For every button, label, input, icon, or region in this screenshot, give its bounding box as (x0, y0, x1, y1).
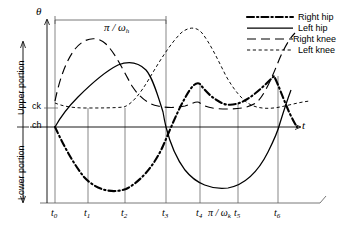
knee-period-annotation: π / ωk (208, 208, 231, 218)
hip-period-annotation: π / ωh (104, 22, 129, 33)
y-axis-label: θ (36, 6, 41, 17)
level-label-ck: ck (32, 102, 41, 111)
x-tick-sub-t1: 1 (87, 212, 91, 220)
grid-lines (55, 20, 278, 203)
x-tick-label-t0: t0 (51, 208, 57, 218)
knee-period-text: π / ω (208, 207, 228, 218)
x-tick-sub-t5: 5 (237, 212, 241, 220)
legend-label-left-knee: Left knee (298, 45, 335, 55)
x-tick-label-t1: t1 (84, 208, 90, 218)
legend-label-right-knee: Right knee (293, 34, 336, 44)
x-tick-sub-t4: 4 (199, 212, 203, 220)
curve-right-knee (55, 33, 295, 109)
x-tick-sub-t2: 2 (124, 212, 128, 220)
upper-portion-label: Upper portion (16, 60, 26, 115)
hip-period-text: π / ω (104, 21, 126, 33)
x-axis-label: t (302, 120, 305, 131)
x-tick-label-t6: t6 (274, 208, 280, 218)
lower-portion-label: Lower portion (16, 145, 26, 200)
x-tick-label-t4: t4 (196, 208, 202, 218)
theta-axis (45, 19, 50, 203)
x-tick-sub-t3: 3 (165, 212, 169, 220)
legend-label-right-hip: Right hip (298, 12, 334, 22)
curve-left-knee (55, 28, 310, 108)
gait-angle-trajectory-figure: θ t ck ch Upper portion Lower portion π … (0, 0, 364, 238)
curve-right-hip (55, 76, 297, 191)
x-tick-label-t5: t5 (234, 208, 240, 218)
curve-left-hip (55, 63, 291, 189)
knee-period-subscript: k (228, 212, 231, 220)
x-tick-sub-t6: 6 (277, 212, 281, 220)
level-label-ch: ch (32, 121, 42, 130)
x-tick-label-t2: t2 (121, 208, 127, 218)
legend-label-left-hip: Left hip (298, 23, 328, 33)
x-tick-label-t3: t3 (162, 208, 168, 218)
x-tick-sub-t0: 0 (54, 212, 58, 220)
bottom-frame-axis (40, 196, 326, 203)
hip-period-subscript: h (126, 27, 130, 35)
